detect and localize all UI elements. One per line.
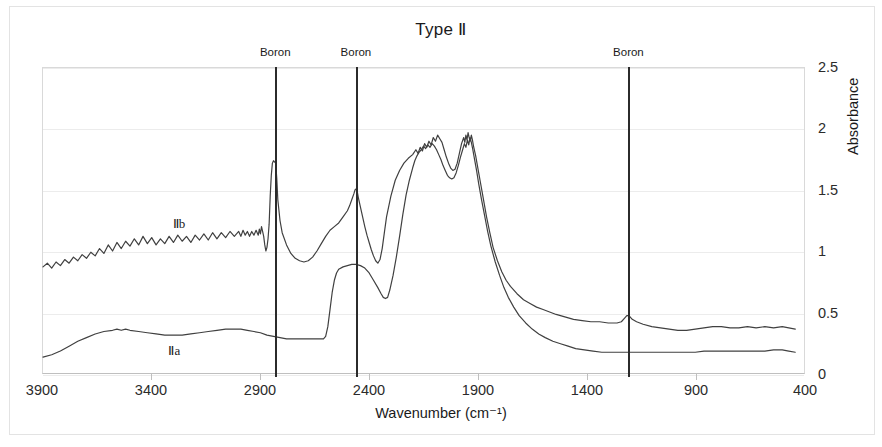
y-tick-label: 1	[818, 243, 826, 259]
x-tick-mark	[696, 374, 697, 380]
x-tick-label: 3900	[26, 382, 58, 398]
plot-area	[42, 67, 805, 374]
x-tick-label: 1400	[571, 382, 603, 398]
x-tick-mark	[478, 374, 479, 380]
x-tick-label: 2400	[353, 382, 385, 398]
series-curves	[43, 68, 804, 373]
boron-marker-line	[356, 67, 358, 377]
x-tick-mark	[587, 374, 588, 380]
series-line-IIb	[43, 133, 795, 331]
boron-marker-label: Boron	[613, 46, 644, 58]
y-tick-label: 2.5	[818, 59, 838, 75]
boron-marker-label: Boron	[260, 46, 291, 58]
gridline	[43, 375, 804, 376]
x-tick-label: 2900	[244, 382, 276, 398]
series-line-IIa	[43, 138, 795, 358]
y-tick-label: 1.5	[818, 182, 838, 198]
y-tick-label: 0.5	[818, 305, 838, 321]
x-tick-mark	[369, 374, 370, 380]
y-axis-label: Absorbance	[845, 78, 861, 155]
series-label-IIa: Ⅱa	[168, 343, 180, 359]
x-tick-mark	[260, 374, 261, 380]
y-tick-label: 2	[818, 120, 826, 136]
x-tick-label: 400	[793, 382, 817, 398]
series-label-IIb: Ⅱb	[173, 216, 186, 232]
boron-marker-line	[628, 67, 630, 377]
boron-marker-line	[275, 67, 277, 377]
x-tick-mark	[151, 374, 152, 380]
x-tick-label: 3400	[135, 382, 167, 398]
x-tick-label: 1900	[462, 382, 494, 398]
y-tick-label: 0	[818, 366, 826, 382]
chart-title: Type Ⅱ	[0, 19, 882, 40]
x-tick-label: 900	[684, 382, 708, 398]
chart-figure: Type Ⅱ BoronBoronBoron 00.511.522.5 3900…	[0, 0, 882, 447]
x-axis-label: Wavenumber (cm⁻¹)	[0, 405, 882, 421]
boron-marker-label: Boron	[341, 46, 372, 58]
